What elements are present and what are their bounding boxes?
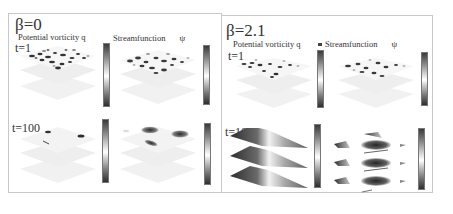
sf-title-left: Streamfunction ψ — [113, 34, 185, 43]
colorbar-ticks: ········ — [323, 50, 324, 106]
sf-stack-beta2.1-t100 — [332, 130, 416, 196]
pv-stack-beta2.1-t100 — [228, 128, 310, 196]
pv-stack-beta0-t1 — [18, 44, 98, 110]
sf-title-text: Streamfunction — [325, 39, 377, 49]
sf-stack-beta0-t1 — [118, 48, 198, 110]
sf-stack-beta2.1-t1 — [336, 56, 416, 112]
colorbar-ticks: ········ — [108, 119, 109, 181]
beta-label-right: β=2.1 — [226, 22, 266, 39]
beta-label-left: β=0 — [15, 16, 42, 33]
colorbar-ticks: ········· — [320, 124, 321, 186]
sf-title-text: Streamfunction — [113, 33, 165, 43]
colorbar-ticks: ······· — [209, 45, 210, 103]
colorbar-ticks: ········ — [109, 43, 110, 105]
pv-title-right: Potential vorticity q — [233, 40, 301, 49]
pv-stack-beta2.1-t1 — [234, 56, 314, 112]
colorbar-ticks: ········ — [210, 123, 211, 183]
sf-stack-beta0-t100 — [118, 125, 198, 187]
pv-stack-beta0-t100 — [18, 125, 98, 187]
colorbar-ticks: ····· — [427, 52, 428, 104]
colorbar-ticks: ······· — [424, 128, 425, 188]
legend-marker-square — [318, 43, 322, 46]
sf-title-right: Streamfunction ψ — [325, 40, 397, 49]
psi-symbol: ψ — [180, 33, 186, 43]
psi-symbol: ψ — [392, 39, 398, 49]
